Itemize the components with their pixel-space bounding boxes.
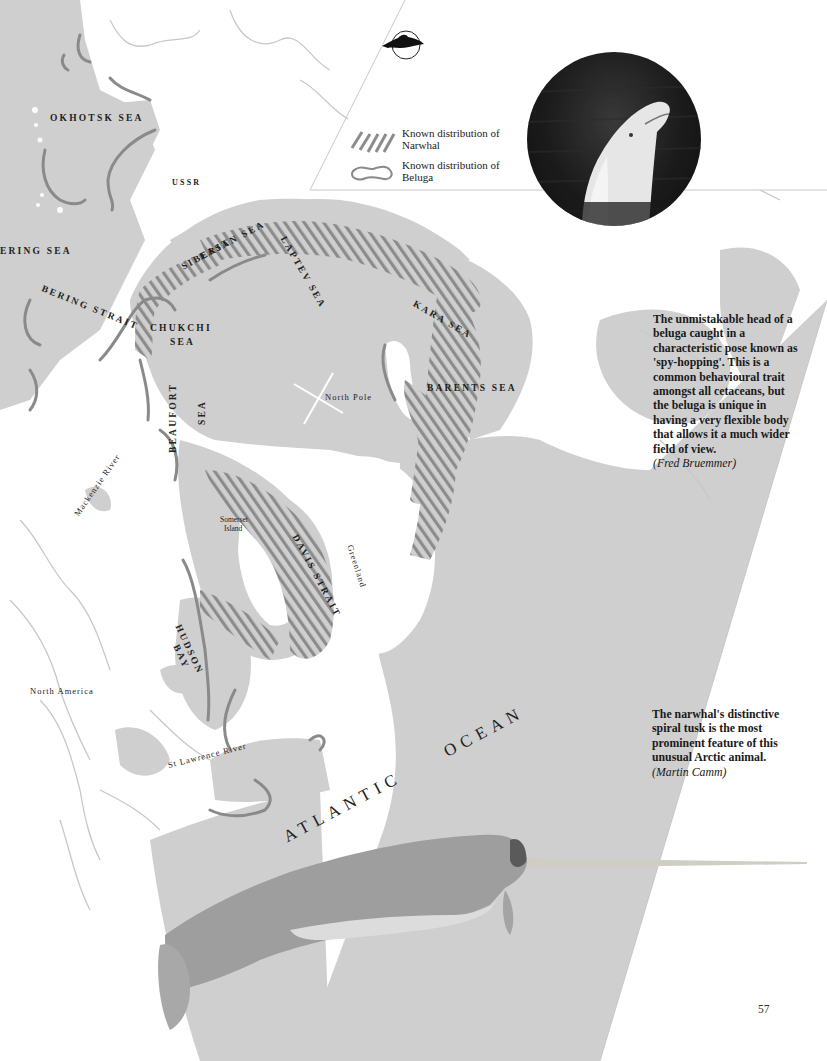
label-north-pole: North Pole <box>325 392 372 402</box>
label-north-america: North America <box>30 686 94 696</box>
rounded-outline-swatch-icon <box>350 160 396 186</box>
dolphin-in-circle-icon <box>380 28 426 62</box>
legend-label-narwhal: Known distribution of Narwhal <box>402 128 512 151</box>
diagonal-hatch-swatch-icon <box>350 128 396 154</box>
dolphin-logo <box>380 28 426 62</box>
label-beaufort-sea-line1: BEAUFORT <box>168 383 178 453</box>
caption-narwhal: The narwhal's distinctive spiral tusk is… <box>652 707 802 779</box>
label-somerset-island-line2: Island <box>224 524 242 533</box>
caption-beluga-text: The unmistakable head of a beluga caught… <box>653 312 798 456</box>
label-chukchi-sea-line2: SEA <box>170 337 195 347</box>
label-ussr: USSR <box>172 178 201 187</box>
legend-item-beluga: Known distribution of Beluga <box>350 160 512 186</box>
page-number: 57 <box>758 1003 770 1015</box>
caption-narwhal-credit: (Martin Camm) <box>652 765 802 779</box>
label-chukchi-sea-line1: CHUKCHI <box>150 323 212 333</box>
caption-narwhal-text: The narwhal's distinctive spiral tusk is… <box>652 707 779 764</box>
label-okhotsk-sea: OKHOTSK SEA <box>50 113 144 123</box>
label-bering-sea: ERING SEA <box>0 246 72 256</box>
label-barents-sea: BARENTS SEA <box>427 383 517 393</box>
legend-label-beluga: Known distribution of Beluga <box>402 160 512 183</box>
map-legend: Known distribution of Narwhal Known dist… <box>350 128 512 192</box>
beluga-spy-hopping-photo <box>527 52 701 226</box>
legend-item-narwhal: Known distribution of Narwhal <box>350 128 512 154</box>
label-beaufort-sea-line2: SEA <box>197 400 207 425</box>
caption-beluga: The unmistakable head of a beluga caught… <box>653 312 803 470</box>
label-somerset-island-line1: Somerset <box>220 515 248 524</box>
caption-beluga-credit: (Fred Bruemmer) <box>653 456 803 470</box>
beluga-photo <box>527 52 701 226</box>
